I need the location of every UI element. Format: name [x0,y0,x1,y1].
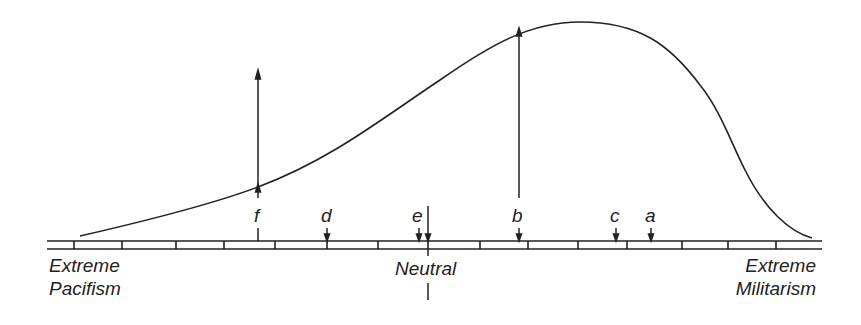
scale-ticks [74,241,776,249]
marker-label-a: a [645,206,656,226]
distribution-curve [80,22,812,238]
marker-label-d: d [321,206,332,226]
arrow-head-icon [517,28,522,36]
left-label-line-1: Extreme [49,254,121,277]
right-label-line-2: Militarism [700,277,816,300]
left-label-line-2: Pacifism [49,277,121,300]
arrow-down-icon [417,234,422,241]
marker-label-b: b [512,206,523,226]
right-extreme-label: Extreme Militarism [700,254,816,300]
marker-label-e: e [412,206,423,226]
marker-label-c: c [610,206,620,226]
neutral-label: Neutral [395,257,456,280]
arrow-down-icon [649,234,654,241]
arrow-down-icon [614,234,619,241]
arrow-head-icon [256,184,261,192]
arrow-down-icon [426,234,431,241]
arrow-down-icon [517,234,522,241]
arrow-down-icon [325,234,330,241]
right-label-line-1: Extreme [700,254,816,277]
arrow-head-icon [256,70,261,79]
marker-label-f: f [254,206,259,226]
left-extreme-label: Extreme Pacifism [49,254,121,300]
